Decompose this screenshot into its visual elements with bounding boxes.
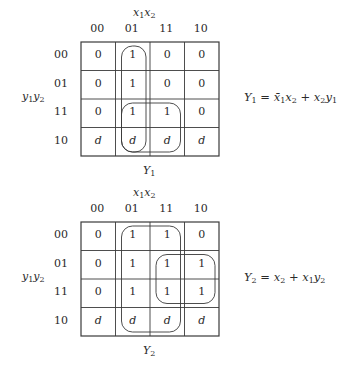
row-header: 11 <box>54 105 68 118</box>
boolean-equation: Y1 = x̄1x2 + x2y1 <box>244 90 337 105</box>
kmap-cell: 0 <box>185 77 220 90</box>
column-header: 01 <box>125 22 139 35</box>
kmap-cell: 1 <box>116 77 151 90</box>
kmap-cell: 0 <box>81 257 116 270</box>
kmap-cell: 1 <box>150 105 185 118</box>
row-variable-label: y1y2 <box>22 270 45 284</box>
column-variable-label: x1x2 <box>133 6 156 20</box>
kmap-caption: Y1 <box>143 164 155 178</box>
kmap-cell: 0 <box>81 105 116 118</box>
kmap-cell: 1 <box>116 257 151 270</box>
row-header: 01 <box>54 77 68 90</box>
boolean-equation: Y2 = x2 + x1y2 <box>244 270 325 285</box>
kmap-cell: 0 <box>150 48 185 61</box>
kmap-cell: 1 <box>116 105 151 118</box>
kmap-cell: 1 <box>116 48 151 61</box>
row-header: 00 <box>54 228 68 241</box>
kmap-cell: 0 <box>150 77 185 90</box>
row-header: 10 <box>54 314 68 327</box>
kmap-cell: 0 <box>81 48 116 61</box>
kmap-cell: 1 <box>150 228 185 241</box>
kmap-cell: d <box>150 314 185 327</box>
kmap-cell: d <box>116 314 151 327</box>
kmap-cell: 0 <box>81 228 116 241</box>
kmap-cell: d <box>185 134 220 147</box>
column-header: 00 <box>90 22 104 35</box>
row-header: 11 <box>54 285 68 298</box>
kmap-cell: 1 <box>116 285 151 298</box>
row-variable-label: y1y2 <box>22 90 45 104</box>
column-variable-label: x1x2 <box>133 186 156 200</box>
column-header: 11 <box>159 22 173 35</box>
row-header: 10 <box>54 134 68 147</box>
column-header: 01 <box>125 202 139 215</box>
kmap-cell: 1 <box>150 257 185 270</box>
kmap-cell: 1 <box>185 285 220 298</box>
kmap-cell: d <box>185 314 220 327</box>
kmap-caption: Y2 <box>143 344 155 358</box>
kmap-cell: 0 <box>185 228 220 241</box>
row-header: 01 <box>54 257 68 270</box>
column-header: 00 <box>90 202 104 215</box>
column-header: 11 <box>159 202 173 215</box>
kmap-cell: 0 <box>185 105 220 118</box>
column-header: 10 <box>194 202 208 215</box>
kmap-cell: 0 <box>185 48 220 61</box>
kmap-cell: d <box>81 134 116 147</box>
kmap-cell: 1 <box>116 228 151 241</box>
row-header: 00 <box>54 48 68 61</box>
kmap-cell: 1 <box>150 285 185 298</box>
column-header: 10 <box>194 22 208 35</box>
kmap-cell: d <box>116 134 151 147</box>
kmap-cell: 0 <box>81 77 116 90</box>
kmap-cell: 0 <box>81 285 116 298</box>
kmap-cell: 1 <box>185 257 220 270</box>
kmap-cell: d <box>81 314 116 327</box>
kmap-cell: d <box>150 134 185 147</box>
